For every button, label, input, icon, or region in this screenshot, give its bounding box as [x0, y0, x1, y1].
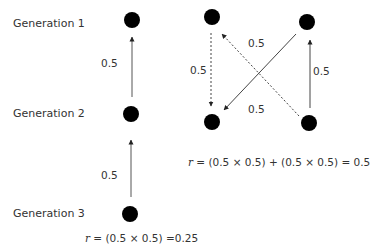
- generation-1-label: Generation 1: [13, 18, 85, 29]
- node-gen3: [122, 206, 138, 222]
- right-formula: r = (0.5 × 0.5) + (0.5 × 0.5) = 0.5: [188, 157, 370, 168]
- node-top-right: [299, 14, 315, 30]
- edge-label-solid-vertical: 0.5: [313, 66, 330, 77]
- left-formula: r = (0.5 × 0.5) =0.25: [85, 233, 198, 244]
- edge-label-dashed-vertical: 0.5: [190, 65, 207, 76]
- edge-label-top-diagonal: 0.5: [248, 38, 265, 49]
- edge-label-gen3-gen2: 0.5: [101, 170, 118, 181]
- node-bottom-left: [204, 114, 220, 130]
- node-bottom-right: [301, 115, 317, 131]
- edge-label-bottom-diagonal: 0.5: [248, 104, 265, 115]
- formula-expression: = (0.5 × 0.5) =0.25: [90, 232, 198, 244]
- generation-3-label: Generation 3: [13, 208, 85, 219]
- node-top-left: [204, 9, 220, 25]
- node-gen2: [123, 106, 139, 122]
- node-gen1: [124, 12, 140, 28]
- edge-label-gen2-gen1: 0.5: [101, 58, 118, 69]
- formula-expression: = (0.5 × 0.5) + (0.5 × 0.5) = 0.5: [193, 156, 370, 168]
- generation-2-label: Generation 2: [13, 108, 85, 119]
